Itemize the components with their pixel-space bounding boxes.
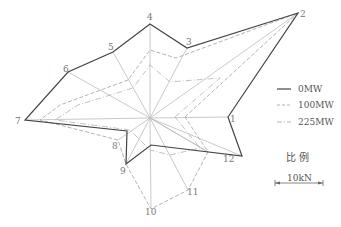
scale-indicator: 比 例 10kN bbox=[275, 151, 323, 186]
axis-label-3: 3 bbox=[186, 37, 192, 47]
axis-label-9: 9 bbox=[120, 166, 126, 176]
axis-label-12: 12 bbox=[223, 154, 234, 164]
axis-label-6: 6 bbox=[63, 64, 69, 74]
scale-title: 比 例 bbox=[286, 151, 309, 163]
axis-label-2: 2 bbox=[300, 9, 306, 19]
radar-spokes bbox=[25, 13, 298, 209]
radar-chart: 1 2 3 4 5 6 7 8 9 10 11 12 0MW 100MW 225… bbox=[0, 0, 341, 227]
axis-label-5: 5 bbox=[108, 42, 114, 52]
axis-labels: 1 2 3 4 5 6 7 8 9 10 11 12 bbox=[15, 9, 306, 217]
scale-bar-arrow-left bbox=[275, 182, 280, 185]
series-100mw bbox=[40, 13, 298, 209]
legend-label-0mw: 0MW bbox=[298, 84, 323, 94]
series-0mw bbox=[25, 13, 298, 164]
legend-label-225mw: 225MW bbox=[298, 117, 334, 127]
legend-label-100mw: 100MW bbox=[298, 100, 334, 110]
axis-label-10: 10 bbox=[145, 207, 157, 217]
axis-label-7: 7 bbox=[15, 116, 21, 126]
scale-bar-arrow-right bbox=[318, 182, 323, 185]
axis-label-1: 1 bbox=[230, 114, 236, 124]
scale-bar-label: 10kN bbox=[287, 173, 312, 183]
axis-label-8: 8 bbox=[112, 141, 118, 151]
axis-label-11: 11 bbox=[187, 187, 198, 197]
legend: 0MW 100MW 225MW bbox=[277, 84, 334, 127]
axis-label-4: 4 bbox=[147, 12, 153, 22]
